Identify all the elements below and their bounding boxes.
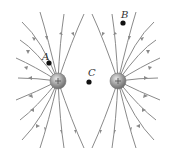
field-diagram: A B C [0,0,171,160]
point-b-label: B [121,10,128,20]
charge-left [50,73,66,89]
charge-right [110,73,126,89]
point-b-dot [120,20,125,25]
field-lines-canvas [0,0,171,160]
point-c-label: C [88,68,96,78]
point-a-label: A [42,52,49,62]
point-c-dot [86,79,91,84]
